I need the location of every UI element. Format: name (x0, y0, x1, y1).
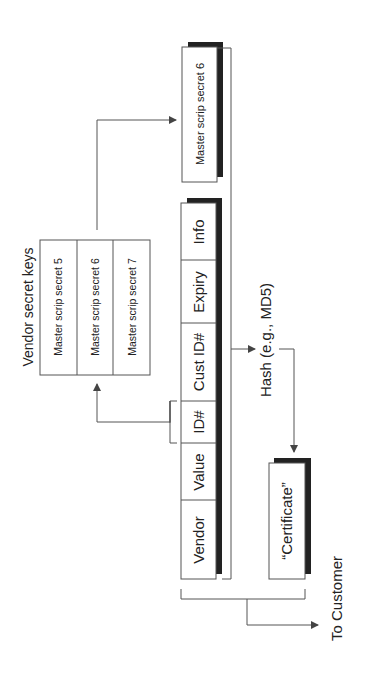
to-customer-arrow (247, 599, 318, 625)
vendor-keys-title: Vendor secret keys (20, 247, 36, 366)
hash-label: Hash (e.g., MD5) (257, 283, 274, 397)
scrip-certificate-diagram: Master scrip secret 6 Vendor secret keys… (0, 0, 380, 673)
record-field-expiry: Expiry (190, 271, 207, 313)
id-to-key-arrow (97, 384, 170, 423)
record-field-vendor: Vendor (190, 516, 207, 564)
to-customer-label: To Customer (328, 556, 345, 641)
hash-to-certificate-arrow (279, 349, 294, 452)
id-bracket (170, 401, 177, 443)
record-field-info: Info (190, 219, 207, 244)
certificate-label: “Certificate” (278, 482, 295, 560)
certificate-box: “Certificate” (269, 458, 311, 579)
output-bracket (181, 589, 305, 599)
selected-secret-label: Master scrip secret 6 (194, 63, 206, 165)
record-field-cust-id: Cust ID# (190, 332, 207, 391)
record-field-id: ID# (190, 410, 207, 434)
vendor-key-item: Master scrip secret 6 (89, 258, 101, 356)
secret-to-selected-arrow (97, 120, 176, 230)
vendor-keys-table: Master scrip secret 5 Master scrip secre… (40, 240, 150, 375)
vendor-key-item: Master scrip secret 7 (126, 258, 138, 356)
record-field-value: Value (190, 453, 207, 490)
vendor-key-item: Master scrip secret 5 (52, 258, 64, 356)
scrip-record: Vendor Value ID# Cust ID# Expiry Info (181, 198, 222, 579)
selected-secret-box: Master scrip secret 6 (182, 42, 223, 182)
